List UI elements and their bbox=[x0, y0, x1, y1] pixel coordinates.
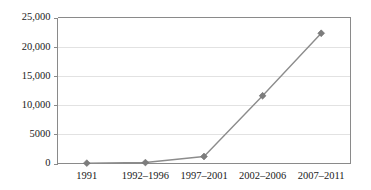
y-tick-label-5000: 5000 bbox=[30, 128, 51, 139]
y-tick-label-15000: 15,000 bbox=[22, 70, 51, 81]
chart-canvas: 0500010,00015,00020,00025,000 19911992–1… bbox=[0, 0, 371, 190]
line-chart-figure: 0500010,00015,00020,00025,000 19911992–1… bbox=[0, 0, 371, 190]
y-tick-label-0: 0 bbox=[45, 157, 50, 168]
x-tick-label-4: 2007–2011 bbox=[298, 170, 345, 181]
x-tick-label-1: 1992–1996 bbox=[122, 170, 169, 181]
x-tick-label-0: 1991 bbox=[76, 170, 97, 181]
chart-background bbox=[0, 0, 371, 190]
y-tick-label-25000: 25,000 bbox=[22, 11, 51, 22]
y-tick-label-10000: 10,000 bbox=[22, 99, 51, 110]
x-tick-label-3: 2002–2006 bbox=[239, 170, 286, 181]
y-tick-label-20000: 20,000 bbox=[22, 41, 51, 52]
x-tick-label-2: 1997–2001 bbox=[180, 170, 227, 181]
